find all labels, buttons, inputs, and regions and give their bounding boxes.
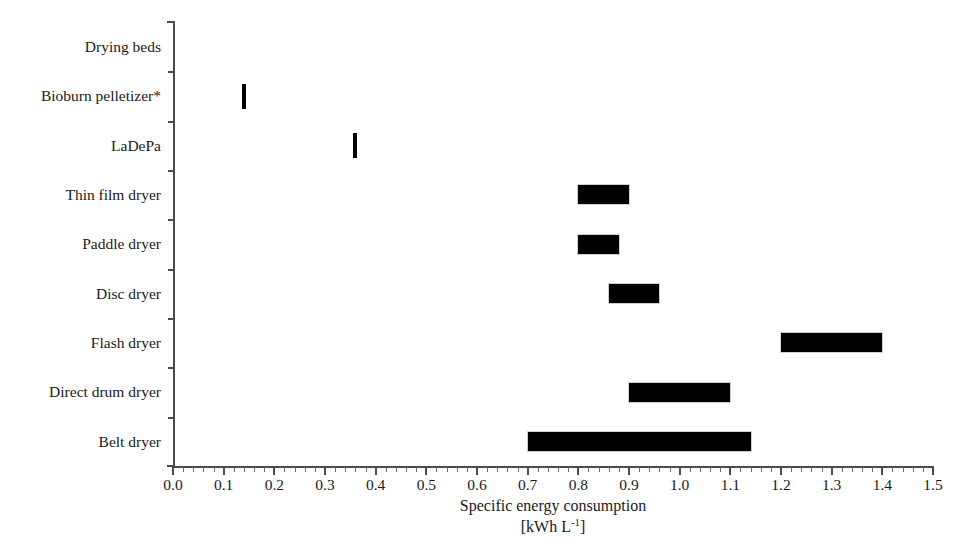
x-axis-title-text: Specific energy consumption bbox=[173, 496, 933, 516]
x-axis-tick-minor bbox=[386, 467, 387, 472]
x-axis-tick-label: 1.5 bbox=[923, 476, 942, 494]
x-axis-tick-minor bbox=[406, 467, 407, 472]
x-axis-tick-major bbox=[425, 467, 427, 475]
y-axis-category-label: Disc dryer bbox=[96, 269, 161, 318]
chart-figure: Drying bedsBioburn pelletizer*LaDePaThin… bbox=[0, 0, 958, 554]
x-axis-tick-minor bbox=[538, 467, 539, 472]
x-axis-tick-major bbox=[273, 467, 275, 475]
x-axis-tick-minor bbox=[811, 467, 812, 472]
chart-bar bbox=[242, 84, 246, 109]
x-axis-tick-major bbox=[527, 467, 529, 475]
y-axis-labels: Drying bedsBioburn pelletizer*LaDePaThin… bbox=[0, 22, 167, 466]
x-axis-tick-minor bbox=[903, 467, 904, 472]
x-axis-tick-minor bbox=[507, 467, 508, 472]
x-axis-tick-minor bbox=[649, 467, 650, 472]
x-axis-tick-minor bbox=[345, 467, 346, 472]
x-axis-tick-minor bbox=[791, 467, 792, 472]
x-axis-tick-major bbox=[324, 467, 326, 475]
y-axis-category-label: Thin film dryer bbox=[65, 170, 161, 219]
x-axis-tick-minor bbox=[852, 467, 853, 472]
x-axis-tick-minor bbox=[436, 467, 437, 472]
x-axis-tick-minor bbox=[862, 467, 863, 472]
x-axis-tick-minor bbox=[193, 467, 194, 472]
chart-bar bbox=[578, 185, 629, 204]
x-axis-tick-minor bbox=[558, 467, 559, 472]
x-axis-unit-close: ] bbox=[580, 519, 585, 536]
y-axis-category-label: Paddle dryer bbox=[82, 219, 161, 268]
x-axis-tick-minor bbox=[923, 467, 924, 472]
x-axis-tick-minor bbox=[295, 467, 296, 472]
x-axis-tick-minor bbox=[639, 467, 640, 472]
x-axis-tick-minor bbox=[872, 467, 873, 472]
plot-area bbox=[173, 22, 933, 466]
x-axis-tick-minor bbox=[264, 467, 265, 472]
x-axis-tick-minor bbox=[203, 467, 204, 472]
x-axis-tick-minor bbox=[183, 467, 184, 472]
x-axis-tick-minor bbox=[740, 467, 741, 472]
x-axis-tick-minor bbox=[487, 467, 488, 472]
x-axis-tick-minor bbox=[720, 467, 721, 472]
x-axis-tick-minor bbox=[355, 467, 356, 472]
y-axis-category-label: Flash dryer bbox=[91, 318, 161, 367]
x-axis-tick-minor bbox=[447, 467, 448, 472]
x-axis-tick-label: 1.0 bbox=[670, 476, 689, 494]
y-axis-category-label: Bioburn pelletizer* bbox=[41, 71, 161, 120]
x-axis-tick-minor bbox=[254, 467, 255, 472]
chart-bar bbox=[781, 333, 882, 352]
x-axis-tick-minor bbox=[497, 467, 498, 472]
x-axis-tick-minor bbox=[568, 467, 569, 472]
y-axis-category-label: Direct drum dryer bbox=[49, 367, 161, 416]
x-axis-tick-minor bbox=[710, 467, 711, 472]
x-axis-tick-major bbox=[577, 467, 579, 475]
x-axis-tick-minor bbox=[335, 467, 336, 472]
x-axis-tick-major bbox=[476, 467, 478, 475]
x-axis-tick-minor bbox=[214, 467, 215, 472]
x-axis-tick-label: 1.4 bbox=[873, 476, 892, 494]
x-axis-tick-label: 1.3 bbox=[822, 476, 841, 494]
x-axis-tick-label: 0.2 bbox=[265, 476, 284, 494]
x-axis-tick-minor bbox=[457, 467, 458, 472]
x-axis-tick-minor bbox=[761, 467, 762, 472]
x-axis-tick-label: 0.6 bbox=[467, 476, 486, 494]
x-axis-tick-major bbox=[679, 467, 681, 475]
x-axis-tick-minor bbox=[548, 467, 549, 472]
y-axis-category-label: Drying beds bbox=[85, 22, 161, 71]
x-axis-tick-major bbox=[172, 467, 174, 475]
x-axis-tick-minor bbox=[619, 467, 620, 472]
y-axis-category-label: Belt dryer bbox=[99, 417, 161, 466]
chart-bar bbox=[353, 133, 357, 158]
x-axis-tick-minor bbox=[284, 467, 285, 472]
x-axis-unit: [kWh L-1] bbox=[173, 516, 933, 538]
x-axis-tick-label: 0.8 bbox=[569, 476, 588, 494]
x-axis-tick-minor bbox=[416, 467, 417, 472]
x-axis-tick-label: 0.5 bbox=[417, 476, 436, 494]
x-axis-tick-minor bbox=[670, 467, 671, 472]
x-axis-tick-minor bbox=[913, 467, 914, 472]
x-axis-tick-minor bbox=[366, 467, 367, 472]
x-axis-tick-major bbox=[881, 467, 883, 475]
chart-bar bbox=[629, 383, 730, 402]
x-axis-tick-label: 0.1 bbox=[214, 476, 233, 494]
x-axis-tick-label: 0.9 bbox=[619, 476, 638, 494]
x-axis-tick-minor bbox=[771, 467, 772, 472]
chart-bar bbox=[528, 432, 751, 451]
x-axis-tick-major bbox=[780, 467, 782, 475]
x-axis-title: Specific energy consumption [kWh L-1] bbox=[173, 496, 933, 538]
x-axis-unit-exponent: -1 bbox=[571, 516, 580, 528]
x-axis-tick-minor bbox=[751, 467, 752, 472]
x-axis-tick-label: 0.4 bbox=[366, 476, 385, 494]
x-axis-tick-minor bbox=[588, 467, 589, 472]
x-axis-tick-minor bbox=[315, 467, 316, 472]
x-axis-tick-minor bbox=[690, 467, 691, 472]
x-axis-tick-minor bbox=[822, 467, 823, 472]
x-axis-tick-major bbox=[831, 467, 833, 475]
x-axis-tick-minor bbox=[518, 467, 519, 472]
x-axis-unit-base: [kWh L bbox=[521, 519, 571, 536]
x-axis-tick-minor bbox=[700, 467, 701, 472]
chart-bar bbox=[578, 235, 619, 254]
x-axis-tick-major bbox=[375, 467, 377, 475]
x-axis-tick-minor bbox=[801, 467, 802, 472]
x-axis-tick-major bbox=[932, 467, 934, 475]
x-axis-tick-label: 1.1 bbox=[721, 476, 740, 494]
x-axis-tick-minor bbox=[659, 467, 660, 472]
